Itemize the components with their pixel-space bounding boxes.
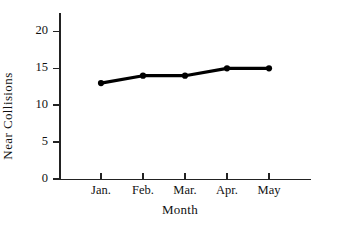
x-tick-mark <box>142 173 144 180</box>
series-markers <box>98 65 272 86</box>
x-tick-label: May <box>239 184 299 197</box>
data-point <box>98 80 104 86</box>
y-tick-mark <box>53 31 60 33</box>
y-tick-label: 5 <box>8 135 48 148</box>
data-series-layer <box>0 0 342 232</box>
y-tick-label: 10 <box>8 98 48 111</box>
data-point <box>140 73 146 79</box>
x-tick-mark <box>268 173 270 180</box>
x-tick-mark <box>184 173 186 180</box>
y-axis-line <box>59 13 61 180</box>
y-tick-label: 15 <box>8 61 48 74</box>
x-tick-mark <box>100 173 102 180</box>
series-line-near-collisions <box>101 68 269 83</box>
y-tick-label: 20 <box>8 24 48 37</box>
x-tick-mark <box>226 173 228 180</box>
data-point <box>224 65 230 71</box>
y-tick-mark <box>53 68 60 70</box>
y-tick-mark <box>53 104 60 106</box>
y-tick-label: 0 <box>8 172 48 185</box>
data-point <box>266 65 272 71</box>
data-point <box>182 73 188 79</box>
y-tick-mark <box>53 178 60 180</box>
x-axis-title: Month <box>60 202 300 218</box>
line-chart: Near Collisions 05101520 Jan.Feb.Mar.Apr… <box>0 0 342 232</box>
y-tick-mark <box>53 141 60 143</box>
